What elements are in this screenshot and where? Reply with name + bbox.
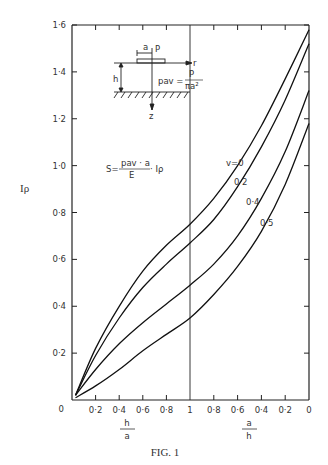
x-tick-label: 0·6 bbox=[231, 405, 245, 415]
svg-text:pav · a: pav · a bbox=[121, 158, 150, 168]
curve-label-v05: 0·5 bbox=[260, 218, 274, 228]
y-tick-label: 1·6 bbox=[52, 20, 66, 30]
y-axis-label: Iρ bbox=[20, 182, 30, 194]
x-tick-label: 1 bbox=[187, 405, 192, 415]
inset-z-label: z bbox=[149, 111, 154, 121]
inset-r-label: r bbox=[193, 58, 197, 68]
svg-text:πa²: πa² bbox=[185, 81, 199, 91]
curve-v04 bbox=[76, 91, 310, 396]
curve-label-v02: 0·2 bbox=[234, 177, 248, 187]
x-tick-label: 0·4 bbox=[112, 405, 126, 415]
curve-v02 bbox=[76, 44, 310, 396]
svg-text:pav =: pav = bbox=[158, 76, 183, 86]
x-tick-label: 0·6 bbox=[136, 405, 150, 415]
curve-label-v04: 0·4 bbox=[246, 197, 260, 207]
y-tick-label: 0 bbox=[59, 404, 64, 414]
figure-caption: FIG. 1 bbox=[151, 446, 180, 458]
svg-text:a: a bbox=[124, 431, 129, 441]
y-tick-label: 1·4 bbox=[52, 67, 66, 77]
y-tick-label: 0·2 bbox=[52, 348, 66, 358]
x-tick-label: 0·8 bbox=[160, 405, 174, 415]
inset-h-label: h bbox=[113, 74, 118, 84]
x-label-left: h a bbox=[120, 418, 135, 441]
y-tick-label: 1·2 bbox=[52, 114, 66, 124]
svg-text:· Iρ: · Iρ bbox=[150, 164, 163, 174]
y-tick-label: 0·4 bbox=[52, 301, 66, 311]
svg-text:S=: S= bbox=[106, 164, 119, 174]
x-label-right: a h bbox=[242, 418, 257, 441]
x-tick-label: 0·4 bbox=[255, 405, 269, 415]
y-tick-label: 0·6 bbox=[52, 254, 66, 264]
svg-text:h: h bbox=[124, 418, 129, 428]
x-tick-label: 0 bbox=[306, 405, 311, 415]
x-tick-label: 0·2 bbox=[89, 405, 103, 415]
svg-text:E: E bbox=[129, 170, 134, 180]
inset-a-label: a bbox=[143, 42, 148, 52]
curve-label-v0: v=0 bbox=[226, 158, 244, 168]
svg-text:h: h bbox=[246, 431, 251, 441]
inset-P-label: P bbox=[155, 44, 160, 54]
settlement-formula: S= pav · a E · Iρ bbox=[106, 158, 163, 180]
y-tick-label: 0·8 bbox=[52, 208, 66, 218]
svg-text:a: a bbox=[246, 418, 251, 428]
svg-text:P: P bbox=[189, 69, 194, 79]
x-tick-label: 0·8 bbox=[207, 405, 221, 415]
chart-figure: 00·20·40·60·81·01·21·41·60·20·40·60·810·… bbox=[0, 0, 328, 465]
y-tick-label: 1·0 bbox=[52, 161, 66, 171]
x-tick-label: 0·2 bbox=[278, 405, 292, 415]
pav-formula: pav = P πa² bbox=[158, 69, 203, 91]
